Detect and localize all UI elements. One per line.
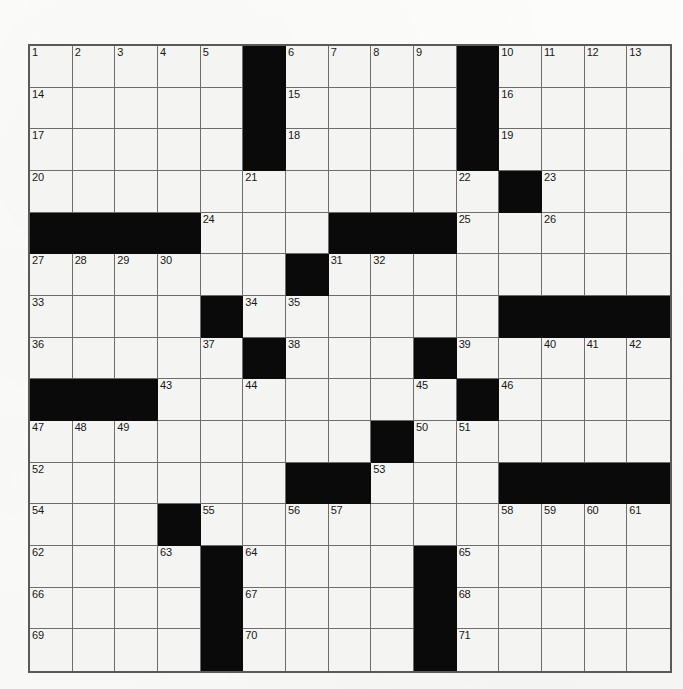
grid-cell[interactable] xyxy=(414,463,457,505)
grid-cell[interactable]: 71 xyxy=(457,629,500,671)
grid-cell[interactable] xyxy=(115,629,158,671)
grid-cell[interactable]: 17 xyxy=(30,129,73,171)
grid-cell[interactable]: 43 xyxy=(158,379,201,421)
grid-cell[interactable]: 10 xyxy=(499,46,542,88)
grid-cell[interactable] xyxy=(286,171,329,213)
grid-cell[interactable] xyxy=(158,129,201,171)
grid-cell[interactable] xyxy=(585,546,628,588)
grid-cell[interactable] xyxy=(457,254,500,296)
grid-cell[interactable]: 50 xyxy=(414,421,457,463)
grid-cell[interactable]: 6 xyxy=(286,46,329,88)
crossword-grid[interactable]: 1234567891011121314151617181920212223242… xyxy=(28,44,672,673)
grid-cell[interactable] xyxy=(542,254,585,296)
grid-cell[interactable] xyxy=(115,504,158,546)
grid-cell[interactable]: 47 xyxy=(30,421,73,463)
grid-cell[interactable]: 39 xyxy=(457,338,500,380)
grid-cell[interactable] xyxy=(115,546,158,588)
grid-cell[interactable] xyxy=(115,88,158,130)
grid-cell[interactable]: 30 xyxy=(158,254,201,296)
grid-cell[interactable] xyxy=(371,338,414,380)
grid-cell[interactable]: 56 xyxy=(286,504,329,546)
grid-cell[interactable] xyxy=(286,213,329,255)
grid-cell[interactable] xyxy=(73,338,116,380)
grid-cell[interactable]: 44 xyxy=(243,379,286,421)
grid-cell[interactable] xyxy=(73,629,116,671)
grid-cell[interactable] xyxy=(329,629,372,671)
grid-cell[interactable] xyxy=(457,296,500,338)
grid-cell[interactable] xyxy=(371,296,414,338)
grid-cell[interactable] xyxy=(585,379,628,421)
grid-cell[interactable] xyxy=(499,254,542,296)
grid-cell[interactable] xyxy=(585,129,628,171)
grid-cell[interactable]: 40 xyxy=(542,338,585,380)
grid-cell[interactable] xyxy=(158,463,201,505)
grid-cell[interactable] xyxy=(585,171,628,213)
grid-cell[interactable]: 41 xyxy=(585,338,628,380)
grid-cell[interactable] xyxy=(158,171,201,213)
grid-cell[interactable]: 59 xyxy=(542,504,585,546)
grid-cell[interactable] xyxy=(73,296,116,338)
grid-cell[interactable]: 29 xyxy=(115,254,158,296)
grid-cell[interactable] xyxy=(585,213,628,255)
grid-cell[interactable] xyxy=(329,421,372,463)
grid-cell[interactable] xyxy=(627,171,670,213)
grid-cell[interactable] xyxy=(329,88,372,130)
grid-cell[interactable]: 64 xyxy=(243,546,286,588)
grid-cell[interactable]: 33 xyxy=(30,296,73,338)
grid-cell[interactable] xyxy=(414,254,457,296)
grid-cell[interactable]: 58 xyxy=(499,504,542,546)
grid-cell[interactable]: 66 xyxy=(30,588,73,630)
grid-cell[interactable] xyxy=(201,88,244,130)
grid-cell[interactable] xyxy=(457,463,500,505)
grid-cell[interactable] xyxy=(499,338,542,380)
grid-cell[interactable] xyxy=(542,129,585,171)
grid-cell[interactable] xyxy=(627,88,670,130)
grid-cell[interactable]: 28 xyxy=(73,254,116,296)
grid-cell[interactable] xyxy=(201,421,244,463)
grid-cell[interactable]: 45 xyxy=(414,379,457,421)
grid-cell[interactable]: 36 xyxy=(30,338,73,380)
grid-cell[interactable]: 42 xyxy=(627,338,670,380)
grid-cell[interactable] xyxy=(158,88,201,130)
grid-cell[interactable] xyxy=(243,254,286,296)
grid-cell[interactable] xyxy=(414,296,457,338)
grid-cell[interactable] xyxy=(73,588,116,630)
grid-cell[interactable] xyxy=(329,296,372,338)
grid-cell[interactable]: 51 xyxy=(457,421,500,463)
grid-cell[interactable] xyxy=(73,129,116,171)
grid-cell[interactable] xyxy=(329,588,372,630)
grid-cell[interactable]: 53 xyxy=(371,463,414,505)
grid-cell[interactable]: 13 xyxy=(627,46,670,88)
grid-cell[interactable] xyxy=(414,504,457,546)
grid-cell[interactable]: 27 xyxy=(30,254,73,296)
grid-cell[interactable] xyxy=(158,338,201,380)
grid-cell[interactable]: 32 xyxy=(371,254,414,296)
grid-cell[interactable] xyxy=(627,629,670,671)
grid-cell[interactable] xyxy=(243,504,286,546)
grid-cell[interactable] xyxy=(115,588,158,630)
grid-cell[interactable] xyxy=(627,421,670,463)
grid-cell[interactable] xyxy=(329,338,372,380)
grid-cell[interactable] xyxy=(457,504,500,546)
grid-cell[interactable] xyxy=(414,88,457,130)
grid-cell[interactable] xyxy=(201,129,244,171)
grid-cell[interactable]: 19 xyxy=(499,129,542,171)
grid-cell[interactable]: 37 xyxy=(201,338,244,380)
grid-cell[interactable] xyxy=(329,379,372,421)
grid-cell[interactable] xyxy=(542,88,585,130)
grid-cell[interactable] xyxy=(627,379,670,421)
grid-cell[interactable]: 12 xyxy=(585,46,628,88)
grid-cell[interactable] xyxy=(158,588,201,630)
grid-cell[interactable] xyxy=(243,213,286,255)
grid-cell[interactable]: 11 xyxy=(542,46,585,88)
grid-cell[interactable] xyxy=(585,629,628,671)
grid-cell[interactable] xyxy=(542,379,585,421)
grid-cell[interactable]: 62 xyxy=(30,546,73,588)
grid-cell[interactable]: 1 xyxy=(30,46,73,88)
grid-cell[interactable]: 24 xyxy=(201,213,244,255)
grid-cell[interactable] xyxy=(73,504,116,546)
grid-cell[interactable] xyxy=(542,421,585,463)
grid-cell[interactable]: 49 xyxy=(115,421,158,463)
grid-cell[interactable]: 67 xyxy=(243,588,286,630)
grid-cell[interactable]: 15 xyxy=(286,88,329,130)
